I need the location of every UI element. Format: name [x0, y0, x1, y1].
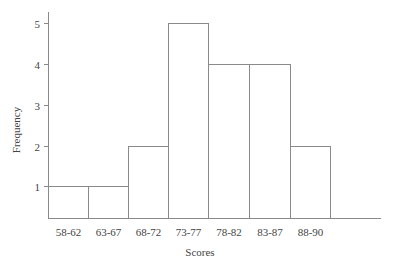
bar-73-77 — [169, 24, 209, 219]
x-tick-label-83-87: 83-87 — [257, 226, 283, 238]
y-tick-label-4: 4 — [35, 59, 41, 71]
y-tick-label-3: 3 — [35, 100, 41, 112]
x-tick-label-63-67: 63-67 — [96, 226, 122, 238]
y-tick-label-2: 2 — [35, 141, 41, 153]
bar-83-87 — [250, 65, 291, 219]
bar-78-82 — [209, 65, 250, 219]
histogram-figure: 5 4 3 2 1 Frequency 58-62 63-67 68-72 73… — [0, 0, 399, 270]
x-tick-label-78-82: 78-82 — [216, 226, 242, 238]
x-tick-label-58-62: 58-62 — [56, 226, 82, 238]
x-axis-title: Scores — [185, 246, 214, 258]
x-tick-label-68-72: 68-72 — [136, 226, 162, 238]
x-tick-label-88-90: 88-90 — [298, 226, 324, 238]
y-tick-label-1: 1 — [35, 181, 41, 193]
bar-58-62 — [49, 187, 89, 219]
bar-88-90 — [291, 147, 331, 219]
histogram-plot: 5 4 3 2 1 Frequency 58-62 63-67 68-72 73… — [0, 0, 399, 270]
x-tick-label-73-77: 73-77 — [176, 226, 202, 238]
bar-63-67 — [89, 187, 129, 219]
y-tick-label-5: 5 — [35, 18, 41, 30]
bar-68-72 — [129, 147, 169, 219]
y-axis-title: Frequency — [10, 106, 22, 153]
